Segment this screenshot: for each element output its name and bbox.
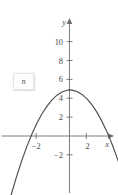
x-axis-label: x bbox=[104, 140, 109, 149]
y-tick-label-2: 2 bbox=[59, 113, 63, 122]
y-axis-label: y bbox=[61, 18, 66, 27]
y-axis-arrow-icon bbox=[67, 18, 73, 24]
y-tick-label-10: 10 bbox=[55, 38, 63, 47]
y-tick-label-6: 6 bbox=[59, 75, 63, 84]
curve-label-text: n bbox=[22, 78, 26, 86]
curve-label-callout: n bbox=[13, 73, 34, 90]
plot-canvas: 10 8 6 4 2 −2 −2 2 y x bbox=[0, 0, 118, 195]
parabola-figure: 10 8 6 4 2 −2 −2 2 y x n bbox=[0, 0, 118, 195]
x-tick-label-minus-2: −2 bbox=[32, 142, 41, 151]
y-tick-label-minus-2: −2 bbox=[54, 151, 63, 160]
y-tick-label-4: 4 bbox=[59, 94, 64, 103]
parabola-curve bbox=[9, 90, 118, 195]
y-tick-label-8: 8 bbox=[59, 57, 63, 66]
x-tick-label-2: 2 bbox=[85, 142, 89, 151]
